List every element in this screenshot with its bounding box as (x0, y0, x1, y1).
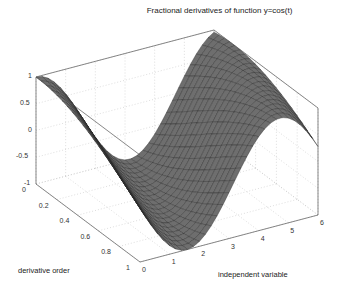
z-tick-label: -1 (24, 179, 30, 186)
y-tick-label: 0 (22, 186, 26, 193)
x-tick-label: 0 (142, 266, 146, 273)
y-tick-label: 0.8 (101, 248, 111, 255)
y-tick-label: 0.6 (80, 233, 90, 240)
chart-title: Fractional derivatives of function y=cos… (0, 6, 347, 15)
z-tick-label: 0.5 (20, 99, 30, 106)
y-tick-label: 1 (126, 264, 130, 271)
surface-mesh (36, 32, 318, 250)
x-tick-label: 5 (290, 227, 294, 234)
z-tick-label: 1 (28, 72, 32, 79)
x-tick-label: 6 (320, 219, 324, 226)
surface-plot (0, 0, 347, 297)
z-tick-label: 0 (28, 126, 32, 133)
x-tick-label: 2 (201, 250, 205, 257)
z-tick-label: -0.5 (16, 152, 28, 159)
x-tick-label: 3 (231, 243, 235, 250)
x-tick-label: 1 (172, 258, 176, 265)
x-axis-label: independent variable (218, 270, 288, 279)
y-axis-label: derivative order (18, 266, 70, 275)
x-tick-label: 4 (261, 235, 265, 242)
y-tick-label: 0.4 (60, 217, 70, 224)
y-tick-label: 0.2 (39, 202, 49, 209)
